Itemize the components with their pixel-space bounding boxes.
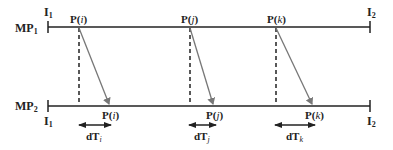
label-p-j-bottom: P(j): [206, 109, 223, 122]
event-j: P(j) P(j) dTj: [181, 13, 223, 144]
label-p-k-top: P(k): [267, 13, 286, 26]
label-i2-top: I2: [367, 5, 376, 20]
label-dt-i: dTi: [86, 130, 102, 144]
transfer-arrow-j: [190, 28, 213, 104]
event-k: P(k) P(k) dTk: [267, 13, 324, 144]
transfer-arrow-k: [276, 28, 312, 104]
label-i2-bottom: I2: [367, 114, 376, 129]
label-p-j-top: P(j): [181, 13, 198, 26]
label-p-i-bottom: P(i): [102, 109, 119, 122]
label-dt-k: dTk: [286, 130, 303, 144]
label-mp1: MP1: [15, 21, 38, 36]
label-p-k-bottom: P(k): [305, 109, 324, 122]
event-i: P(i) P(i) dTi: [70, 13, 119, 144]
label-dt-j: dTj: [194, 130, 210, 144]
label-mp2: MP2: [15, 99, 38, 114]
label-i1-top: I1: [44, 5, 53, 20]
timing-diagram: MP1 I1 I2 MP2 I1 I2 P(i) P(i) dTi P(j) P…: [0, 0, 393, 150]
label-p-i-top: P(i): [70, 13, 87, 26]
transfer-arrow-i: [79, 28, 109, 104]
label-i1-bottom: I1: [44, 114, 53, 129]
